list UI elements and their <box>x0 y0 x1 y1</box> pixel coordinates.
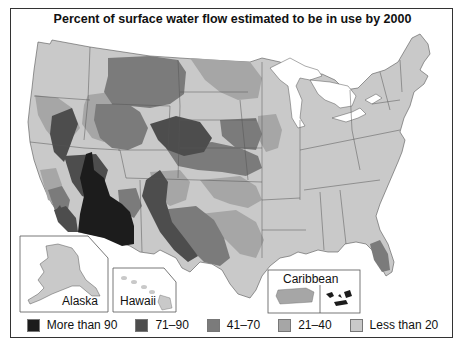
legend-label: 21–40 <box>298 318 331 332</box>
caribbean-label: Caribbean <box>283 272 338 286</box>
legend: More than 90 71–90 41–70 21–40 Less than… <box>0 318 465 332</box>
swatch-71-90 <box>135 319 148 332</box>
swatch-21-40 <box>278 319 291 332</box>
legend-label: More than 90 <box>47 318 118 332</box>
swatch-more-than-90 <box>27 319 40 332</box>
legend-item-21-40: 21–40 <box>278 318 331 332</box>
legend-label: Less than 20 <box>370 318 439 332</box>
legend-item-41-70: 41–70 <box>207 318 260 332</box>
swatch-41-70 <box>207 319 220 332</box>
legend-item-71-90: 71–90 <box>135 318 188 332</box>
legend-item-less-than-20: Less than 20 <box>350 318 439 332</box>
alaska-label: Alaska <box>62 294 98 308</box>
legend-label: 41–70 <box>227 318 260 332</box>
hawaii-label: Hawaii <box>120 294 156 308</box>
legend-label: 71–90 <box>155 318 188 332</box>
legend-item-more-than-90: More than 90 <box>27 318 118 332</box>
swatch-less-than-20 <box>350 319 363 332</box>
